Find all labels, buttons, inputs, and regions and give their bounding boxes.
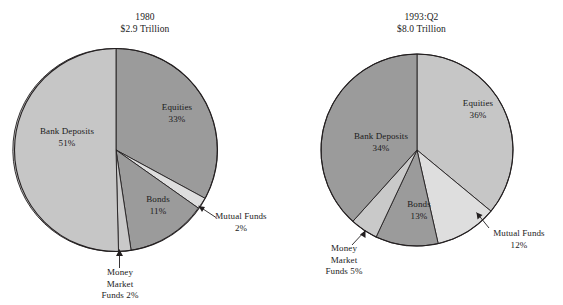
- slice-label-bonds-1993q2: Bonds 13%: [388, 199, 450, 222]
- callout-label-value: Funds 2%: [70, 290, 170, 302]
- slice-label-value: 34%: [330, 143, 432, 155]
- slice-label-name: Equities: [137, 102, 217, 114]
- callout-label-name: Mutual Funds: [195, 211, 287, 223]
- slice-label-name: Bonds: [388, 199, 450, 211]
- pie-svg-1980: [0, 0, 290, 305]
- callout-label-name: Mutual Funds: [473, 228, 563, 240]
- slice-label-name: Bank Deposits: [330, 131, 432, 143]
- slice-label-value: 11%: [127, 206, 189, 218]
- slice-label-name: Bonds: [127, 194, 189, 206]
- callout-label-mutual-funds-1993q2: Mutual Funds 12%: [473, 228, 563, 251]
- callout-label-name-line2: Market: [294, 255, 394, 267]
- callout-label-name-line2: Market: [70, 279, 170, 291]
- callout-label-money-market-1993q2: Money Market Funds 5%: [294, 243, 394, 278]
- slice-label-value: 33%: [137, 114, 217, 126]
- slice-label-name: Bank Deposits: [16, 126, 118, 138]
- slice-label-value: 13%: [388, 211, 450, 223]
- slice-bank-deposits-1980: [13, 48, 119, 251]
- slice-label-name: Equities: [438, 98, 518, 110]
- pie-panel-1980: 1980 $2.9 Trillion: [0, 0, 290, 305]
- callout-label-value: 12%: [473, 240, 563, 252]
- callout-label-money-market-1980: Money Market Funds 2%: [70, 267, 170, 302]
- callout-label-mutual-funds-1980: Mutual Funds 2%: [195, 211, 287, 234]
- callout-label-name-line1: Money: [70, 267, 170, 279]
- pie-chart-figure: 1980 $2.9 Trillion: [0, 0, 563, 305]
- slice-label-value: 36%: [438, 110, 518, 122]
- slice-label-bank-deposits-1993q2: Bank Deposits 34%: [330, 131, 432, 154]
- slice-label-equities-1993q2: Equities 36%: [438, 98, 518, 121]
- callout-label-name-line1: Money: [294, 243, 394, 255]
- slice-label-value: 51%: [16, 138, 118, 150]
- slice-label-bank-deposits-1980: Bank Deposits 51%: [16, 126, 118, 149]
- leader-money-market-1980: [116, 250, 123, 269]
- pie-panel-1993q2: 1993:Q2 $8.0 Trillion: [280, 0, 563, 305]
- slice-label-equities-1980: Equities 33%: [137, 102, 217, 125]
- slice-label-bonds-1980: Bonds 11%: [127, 194, 189, 217]
- callout-label-value: 2%: [195, 223, 287, 235]
- callout-label-value: Funds 5%: [294, 266, 394, 278]
